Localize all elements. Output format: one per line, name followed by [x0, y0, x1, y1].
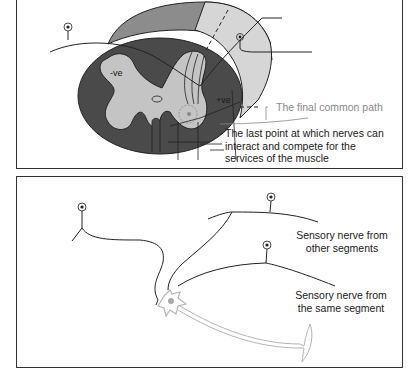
- label-last-point: The last point at which nerves can inter…: [225, 127, 384, 165]
- ventral-fissure: [152, 118, 160, 152]
- label-same-segment: Sensory nerve from the same segment: [286, 289, 396, 314]
- label-negative: -ve: [110, 67, 123, 80]
- label-other-segments: Sensory nerve from other segments: [288, 229, 396, 254]
- label-positive: +ve: [216, 94, 231, 107]
- label-final-common-path: The final common path: [276, 101, 383, 114]
- muscle-ending: [300, 324, 312, 362]
- diagram-artwork: [0, 0, 419, 370]
- reflex-pathway-illustration: [72, 193, 335, 362]
